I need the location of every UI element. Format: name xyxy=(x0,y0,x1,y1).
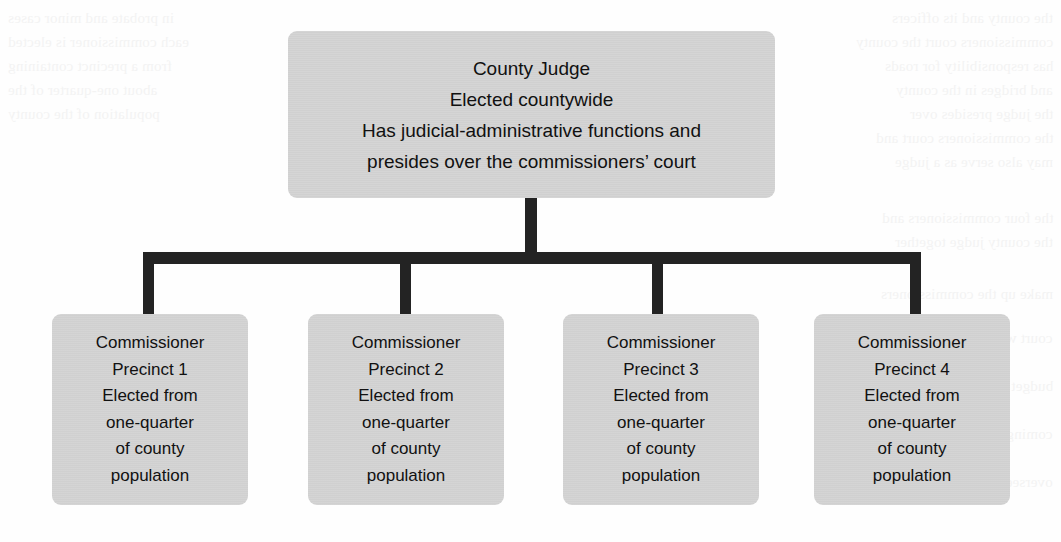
node-commissioner-precinct-3[interactable]: Commissioner Precinct 3 Elected from one… xyxy=(563,314,759,505)
connector-drop-commissioner-4 xyxy=(910,252,921,316)
node-text-line: Precinct 4 xyxy=(874,357,950,384)
ghost-text-line: the county and its officers xyxy=(892,10,1053,27)
connector-stem-root xyxy=(525,198,537,258)
connector-horizontal-bus xyxy=(143,252,921,264)
ghost-text-line: the judge presides over xyxy=(910,106,1053,123)
node-text-line: Has judicial-administrative functions an… xyxy=(362,115,701,146)
node-text-line: Precinct 2 xyxy=(368,357,444,384)
ghost-text-line: has responsibility for roads xyxy=(885,58,1054,75)
node-text-line: population xyxy=(111,463,189,490)
node-text-line: Elected from xyxy=(613,383,708,410)
node-text-line: Elected from xyxy=(358,383,453,410)
node-text-line: Commissioner xyxy=(607,330,716,357)
node-county-judge[interactable]: County Judge Elected countywide Has judi… xyxy=(288,31,775,198)
ghost-text-line: and bridges in the county xyxy=(896,82,1053,99)
node-text-line: of county xyxy=(878,436,947,463)
ghost-text-line: make up the commissioners xyxy=(881,286,1053,303)
node-text-line: one-quarter xyxy=(106,410,194,437)
node-text-line: Elected countywide xyxy=(450,84,614,115)
node-text-line: one-quarter xyxy=(868,410,956,437)
node-text-line: one-quarter xyxy=(362,410,450,437)
ghost-text-line: the four commissioners and xyxy=(882,210,1053,227)
connector-drop-commissioner-1 xyxy=(143,252,154,316)
node-text-line: Precinct 1 xyxy=(112,357,188,384)
node-text-line: of county xyxy=(116,436,185,463)
ghost-text-line: the county judge together xyxy=(895,234,1053,251)
node-text-line: of county xyxy=(627,436,696,463)
node-commissioner-precinct-1[interactable]: Commissioner Precinct 1 Elected from one… xyxy=(52,314,248,505)
org-chart: the county and its officers commissioner… xyxy=(0,0,1061,542)
node-text-line: Precinct 3 xyxy=(623,357,699,384)
node-text-line: Elected from xyxy=(102,383,197,410)
ghost-text-line: commissioners court the county xyxy=(856,34,1053,51)
ghost-text-line: in probate and minor cases xyxy=(8,10,174,27)
node-text-line: one-quarter xyxy=(617,410,705,437)
node-text-line: Elected from xyxy=(864,383,959,410)
connector-drop-commissioner-2 xyxy=(400,252,411,316)
node-commissioner-precinct-2[interactable]: Commissioner Precinct 2 Elected from one… xyxy=(308,314,504,505)
ghost-text-line: each commissioner is elected xyxy=(8,34,189,51)
ghost-text-line: population of the county xyxy=(8,106,160,123)
node-text-line: of county xyxy=(372,436,441,463)
node-text-line: County Judge xyxy=(473,53,590,84)
node-text-line: Commissioner xyxy=(352,330,461,357)
node-text-line: presides over the commissioners’ court xyxy=(367,146,696,177)
node-text-line: population xyxy=(873,463,951,490)
ghost-text-line: may also serve as a judge xyxy=(895,154,1053,171)
node-text-line: Commissioner xyxy=(858,330,967,357)
ghost-text-line: about one-quarter of the xyxy=(8,82,157,99)
ghost-text-line: from a precinct containing xyxy=(8,58,172,75)
connector-drop-commissioner-3 xyxy=(652,252,663,316)
node-commissioner-precinct-4[interactable]: Commissioner Precinct 4 Elected from one… xyxy=(814,314,1010,505)
ghost-text-line: the commissioners court and xyxy=(876,130,1053,147)
node-text-line: population xyxy=(367,463,445,490)
node-text-line: population xyxy=(622,463,700,490)
node-text-line: Commissioner xyxy=(96,330,205,357)
